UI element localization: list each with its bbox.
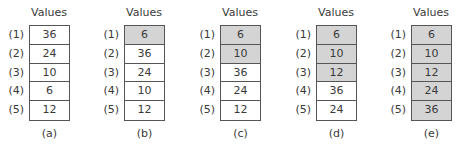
row-index-label: (3)	[289, 66, 311, 79]
row-index-label: (4)	[289, 84, 311, 97]
panel-caption: (e)	[411, 127, 452, 140]
row-index-label: (5)	[384, 103, 406, 116]
value-cell: 10	[30, 64, 69, 83]
value-cell: 12	[221, 101, 260, 120]
column-header: Values	[210, 6, 270, 19]
row-index-label: (1)	[193, 28, 215, 41]
row-index-label: (4)	[97, 84, 119, 97]
value-cell: 36	[125, 45, 164, 64]
row-index-label: (3)	[2, 66, 24, 79]
value-cell: 24	[30, 45, 69, 64]
row-index-label: (1)	[384, 28, 406, 41]
row-index-label: (2)	[2, 47, 24, 60]
values-table: 636241012	[124, 25, 165, 121]
row-index-label: (4)	[193, 84, 215, 97]
row-index-label: (5)	[2, 103, 24, 116]
row-index-label: (2)	[289, 47, 311, 60]
values-table: 610122436	[411, 25, 452, 121]
panel-caption: (b)	[124, 127, 165, 140]
column-header: Values	[19, 6, 79, 19]
value-cell: 10	[317, 45, 356, 64]
value-cell: 24	[125, 64, 164, 83]
value-cell: 10	[221, 45, 260, 64]
value-cell: 6	[412, 26, 451, 45]
value-cell: 36	[221, 64, 260, 83]
value-cell: 36	[317, 82, 356, 101]
value-cell: 6	[30, 82, 69, 101]
panel-caption: (d)	[316, 127, 357, 140]
row-index-label: (3)	[384, 66, 406, 79]
value-cell: 6	[125, 26, 164, 45]
row-index-label: (1)	[97, 28, 119, 41]
values-table: 362410612	[29, 25, 70, 121]
column-header: Values	[306, 6, 366, 19]
column-header: Values	[114, 6, 174, 19]
value-cell: 12	[125, 101, 164, 120]
value-cell: 24	[412, 82, 451, 101]
row-index-label: (5)	[289, 103, 311, 116]
row-index-label: (3)	[193, 66, 215, 79]
row-index-label: (5)	[97, 103, 119, 116]
row-index-label: (2)	[193, 47, 215, 60]
row-index-label: (4)	[384, 84, 406, 97]
value-cell: 12	[412, 64, 451, 83]
values-table: 610123624	[316, 25, 357, 121]
value-cell: 6	[317, 26, 356, 45]
row-index-label: (4)	[2, 84, 24, 97]
values-table: 610362412	[220, 25, 261, 121]
row-index-label: (2)	[384, 47, 406, 60]
row-index-label: (5)	[193, 103, 215, 116]
value-cell: 10	[125, 82, 164, 101]
row-index-label: (3)	[97, 66, 119, 79]
value-cell: 36	[30, 26, 69, 45]
panel-caption: (a)	[29, 127, 70, 140]
panel-caption: (c)	[220, 127, 261, 140]
value-cell: 12	[317, 64, 356, 83]
value-cell: 12	[30, 101, 69, 120]
value-cell: 10	[412, 45, 451, 64]
value-cell: 24	[317, 101, 356, 120]
value-cell: 36	[412, 101, 451, 120]
value-cell: 6	[221, 26, 260, 45]
value-cell: 24	[221, 82, 260, 101]
row-index-label: (2)	[97, 47, 119, 60]
column-header: Values	[401, 6, 461, 19]
row-index-label: (1)	[2, 28, 24, 41]
row-index-label: (1)	[289, 28, 311, 41]
